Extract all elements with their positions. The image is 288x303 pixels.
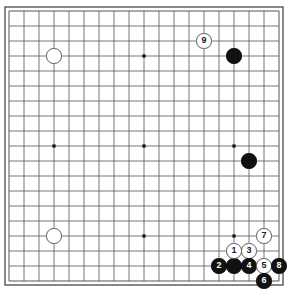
move-number-label: 2 bbox=[216, 261, 221, 270]
stone-move-1[interactable]: 1 bbox=[226, 243, 241, 258]
stone-black-bottom-right-corner[interactable] bbox=[226, 258, 241, 273]
stone-move-5[interactable]: 5 bbox=[256, 258, 271, 273]
star-point bbox=[232, 234, 235, 237]
move-number-label: 3 bbox=[246, 246, 251, 255]
stone-black-right-side[interactable] bbox=[241, 153, 256, 168]
stone-move-2[interactable]: 2 bbox=[211, 258, 226, 273]
stone-move-7[interactable]: 7 bbox=[256, 228, 271, 243]
star-point bbox=[232, 144, 235, 147]
star-point bbox=[142, 234, 145, 237]
move-number-label: 7 bbox=[261, 231, 266, 240]
stone-move-4[interactable]: 4 bbox=[241, 258, 256, 273]
stone-black-upper-right[interactable] bbox=[226, 48, 241, 63]
move-number-label: 6 bbox=[261, 276, 266, 285]
move-number-label: 9 bbox=[201, 36, 206, 45]
stone-white-lower-left-hoshi[interactable] bbox=[46, 228, 61, 243]
stone-move-6[interactable]: 6 bbox=[256, 273, 271, 288]
stone-move-9[interactable]: 9 bbox=[196, 33, 211, 48]
star-point bbox=[52, 144, 55, 147]
move-number-label: 5 bbox=[261, 261, 266, 270]
move-number-label: 1 bbox=[231, 246, 236, 255]
move-number-label: 8 bbox=[276, 261, 281, 270]
move-number-label: 4 bbox=[246, 261, 251, 270]
stone-move-3[interactable]: 3 bbox=[241, 243, 256, 258]
go-board-diagram: 971324586 bbox=[0, 0, 288, 303]
star-point bbox=[142, 144, 145, 147]
stone-move-8[interactable]: 8 bbox=[271, 258, 286, 273]
star-point bbox=[142, 54, 145, 57]
stone-white-upper-left-hoshi[interactable] bbox=[46, 48, 61, 63]
